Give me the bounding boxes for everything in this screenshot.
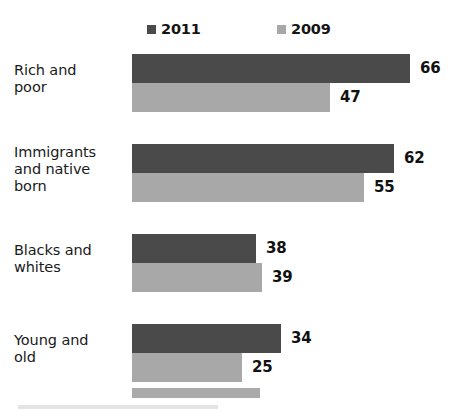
category-label-line: and native bbox=[14, 161, 90, 177]
bar-2011[interactable] bbox=[132, 144, 394, 173]
scan-artifact bbox=[132, 388, 260, 398]
category-label-line: born bbox=[14, 178, 47, 194]
bar-value-2009: 39 bbox=[272, 263, 292, 292]
category-label-line: Young and bbox=[14, 332, 88, 348]
plot-area: Rich and poor 66 47 Immigrants and nativ… bbox=[0, 46, 466, 396]
bar-2011[interactable] bbox=[132, 54, 410, 83]
bar-value-2009: 25 bbox=[252, 353, 272, 382]
bar-chart: 2011 2009 Rich and poor 66 47 bbox=[0, 0, 466, 412]
category-label-line: Immigrants bbox=[14, 144, 96, 160]
scan-artifact-faint bbox=[18, 405, 218, 409]
bar-2009[interactable] bbox=[132, 353, 242, 382]
bar-2011[interactable] bbox=[132, 324, 281, 353]
bar-2009[interactable] bbox=[132, 83, 330, 112]
category-label-line: Rich and bbox=[14, 62, 76, 78]
bar-2009[interactable] bbox=[132, 173, 364, 202]
legend-item-2009[interactable]: 2009 bbox=[277, 22, 331, 37]
bar-value-2009: 55 bbox=[374, 173, 394, 202]
category-label-immigrants-and-native-born: Immigrants and native born bbox=[14, 144, 129, 195]
bar-value-2011: 62 bbox=[404, 144, 424, 173]
bar-2009[interactable] bbox=[132, 263, 262, 292]
legend-swatch-2009 bbox=[277, 25, 286, 34]
category-label-line: old bbox=[14, 349, 36, 365]
category-label-rich-and-poor: Rich and poor bbox=[14, 62, 129, 96]
category-label-line: poor bbox=[14, 79, 47, 95]
bar-value-2011: 66 bbox=[420, 54, 440, 83]
category-label-blacks-and-whites: Blacks and whites bbox=[14, 242, 129, 276]
category-label-line: whites bbox=[14, 259, 61, 275]
bar-value-2009: 47 bbox=[340, 83, 360, 112]
category-label-line: Blacks and bbox=[14, 242, 92, 258]
category-label-young-and-old: Young and old bbox=[14, 332, 129, 366]
bar-value-2011: 34 bbox=[291, 324, 311, 353]
legend-label-2009: 2009 bbox=[291, 22, 331, 37]
bar-2011[interactable] bbox=[132, 234, 256, 263]
legend-label-2011: 2011 bbox=[161, 22, 201, 37]
legend-swatch-2011 bbox=[147, 25, 156, 34]
chart-legend: 2011 2009 bbox=[0, 22, 466, 44]
legend-item-2011[interactable]: 2011 bbox=[147, 22, 201, 37]
bar-value-2011: 38 bbox=[266, 234, 286, 263]
